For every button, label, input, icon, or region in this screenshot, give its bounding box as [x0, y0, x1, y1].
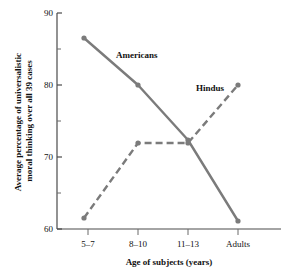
x-tick-label-adults: Adults — [226, 239, 251, 249]
series-label-americans: Americans — [116, 50, 158, 60]
y-axis-title-line2: moral thinking over all 39 cases — [24, 60, 34, 182]
series-label-hindus: Hindus — [196, 83, 225, 93]
series-hindus-point-2 — [185, 140, 190, 145]
y-axis-tick-labels: 90 80 70 60 — [44, 8, 54, 234]
line-chart: 90 80 70 60 5–7 8–10 11–13 Adults Age of… — [0, 0, 287, 271]
x-tick-label-8-10: 8–10 — [129, 239, 148, 249]
x-tick-label-11-13: 11–13 — [177, 239, 200, 249]
series-hindus-point-0 — [81, 215, 86, 220]
series-hindus-point-3 — [235, 82, 240, 87]
series-americans-line — [84, 38, 238, 221]
series-hindus-line — [84, 85, 238, 218]
y-tick-label-70: 70 — [44, 152, 54, 162]
series-americans-point-1 — [135, 82, 140, 87]
y-tick-label-60: 60 — [44, 224, 54, 234]
y-tick-label-80: 80 — [44, 80, 54, 90]
series-americans — [81, 35, 240, 223]
chart-figure: 90 80 70 60 5–7 8–10 11–13 Adults Age of… — [0, 0, 287, 271]
x-axis-ticks — [88, 229, 238, 235]
y-axis-title: Average percentage of universalistic mor… — [13, 51, 34, 192]
series-hindus-point-1 — [135, 140, 140, 145]
series-americans-point-0 — [81, 35, 86, 40]
y-tick-label-90: 90 — [44, 8, 54, 18]
x-axis-title: Age of subjects (years) — [126, 257, 213, 267]
series-americans-point-3 — [235, 218, 240, 223]
y-axis-title-line1: Average percentage of universalistic — [13, 53, 23, 191]
x-tick-label-5-7: 5–7 — [81, 239, 95, 249]
series-hindus — [81, 82, 240, 220]
chart-axes — [57, 13, 281, 229]
x-axis-tick-labels: 5–7 8–10 11–13 Adults — [81, 239, 250, 249]
